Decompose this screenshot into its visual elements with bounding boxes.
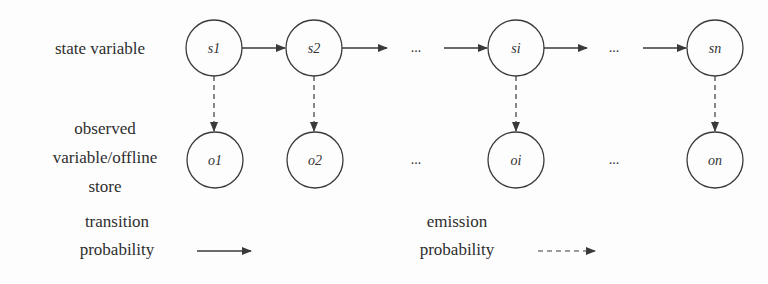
state-ellipsis-1: ... <box>411 40 422 55</box>
observed-label-line1: observed <box>74 119 136 138</box>
legend-emission-line2: probability <box>420 240 495 259</box>
state-node-si: si <box>488 20 544 76</box>
observed-ellipsis-1: ... <box>411 152 422 167</box>
observed-label-line3: store <box>88 177 121 196</box>
observed-label-line2: variable/offline <box>53 148 157 167</box>
observed-node-label: o2 <box>308 153 322 168</box>
observed-node-o2: o2 <box>287 132 343 188</box>
observed-node-on: on <box>687 132 743 188</box>
state-node-label: sn <box>709 41 721 56</box>
legend-transition-line2: probability <box>80 240 155 259</box>
state-node-label: s2 <box>308 41 320 56</box>
state-node-sn: sn <box>687 20 743 76</box>
observed-node-oi: oi <box>488 132 544 188</box>
state-node-s2: s2 <box>286 20 342 76</box>
observed-node-label: oi <box>511 153 522 168</box>
observed-node-o1: o1 <box>187 132 243 188</box>
observed-ellipsis-2: ... <box>609 152 620 167</box>
observed-node-label: on <box>708 153 722 168</box>
hmm-diagram: state variable observed variable/offline… <box>0 0 768 284</box>
state-ellipsis-2: ... <box>609 40 620 55</box>
state-node-s1: s1 <box>186 20 242 76</box>
state-node-label: si <box>511 41 520 56</box>
observed-node-label: o1 <box>208 153 222 168</box>
legend-transition-line1: transition <box>85 212 150 231</box>
state-node-label: s1 <box>208 41 220 56</box>
state-variable-label: state variable <box>55 39 145 58</box>
legend-emission-line1: emission <box>427 212 488 231</box>
